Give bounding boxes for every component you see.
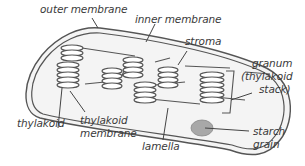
- label-lamella: lamella: [142, 140, 180, 152]
- label-granum-1: granum: [252, 57, 292, 69]
- label-granum-3: stack): [259, 83, 290, 95]
- label-thylakoid: thylakoid: [17, 117, 65, 129]
- label-starch-grain-1: starch: [253, 125, 285, 137]
- label-starch-grain-2: grain: [253, 138, 280, 150]
- label-thylakoid-membrane-2: membrane: [80, 127, 137, 139]
- chloroplast-diagram: outer membrane inner membrane stroma gra…: [0, 0, 305, 166]
- label-inner-membrane: inner membrane: [135, 13, 221, 25]
- label-granum-2: (thylakoid: [241, 70, 293, 82]
- label-stroma: stroma: [185, 35, 221, 47]
- label-outer-membrane: outer membrane: [40, 3, 127, 15]
- label-thylakoid-membrane-1: thylakoid: [80, 114, 128, 126]
